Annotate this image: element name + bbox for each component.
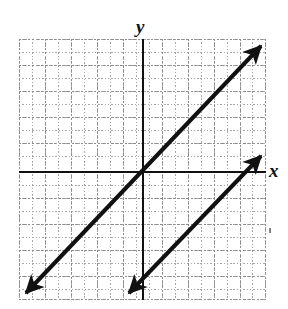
x-axis-label: x [269,161,279,180]
plot-area [0,0,288,309]
coordinate-graph-figure: y x [0,0,288,309]
y-axis-label: y [136,17,144,36]
